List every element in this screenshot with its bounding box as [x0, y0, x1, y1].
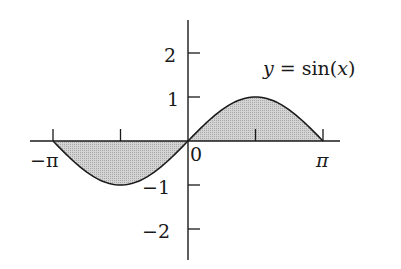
y-tick-label-neg1: −1 [142, 176, 170, 198]
y-tick-label-1: 1 [167, 88, 179, 110]
x-tick-label-neg-pi: −π [30, 149, 58, 171]
y-tick-label-neg2: −2 [142, 220, 170, 242]
function-annotation: y = sin(x) [262, 57, 355, 79]
y-tick-label-2: 2 [164, 44, 176, 66]
origin-label: 0 [190, 143, 202, 165]
sine-plot: −π π 0 2 1 −1 −2 y = sin(x) [0, 0, 401, 269]
x-tick-label-pi: π [315, 149, 329, 171]
